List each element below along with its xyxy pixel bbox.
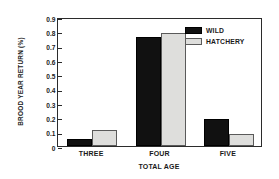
y-axis-tick-label: 0.7 xyxy=(46,44,55,51)
y-axis-tick: 0 xyxy=(58,148,62,149)
y-axis-tick-label: 0.6 xyxy=(46,59,55,66)
bar-four-hatchery xyxy=(161,33,186,146)
bar-five-wild xyxy=(204,119,229,146)
y-axis-tick-label: 0.2 xyxy=(46,116,55,123)
legend-item-hatchery: HATCHERY xyxy=(185,36,259,47)
legend-item-wild: WILD xyxy=(185,25,259,36)
legend-label-wild: WILD xyxy=(206,27,224,34)
bar-three-hatchery xyxy=(92,130,117,146)
y-axis-tick-label: 0.9 xyxy=(46,16,55,23)
legend-label-hatchery: HATCHERY xyxy=(206,38,245,45)
y-axis-tick-label: 0.5 xyxy=(46,73,55,80)
y-axis-tick-label: 0.1 xyxy=(46,130,55,137)
y-axis-title: BROOD YEAR RETURN (%) xyxy=(17,12,24,152)
y-axis-tick: 0.8 xyxy=(58,33,62,34)
x-axis-tick-label-four: FOUR xyxy=(149,150,170,157)
y-axis-tick: 0.1 xyxy=(58,134,62,135)
legend-swatch-wild xyxy=(185,27,202,34)
bar-four-wild xyxy=(136,37,161,146)
y-axis-tick: 0.4 xyxy=(58,91,62,92)
y-axis-tick: 0.6 xyxy=(58,62,62,63)
chart-legend: WILDHATCHERY xyxy=(185,25,259,47)
y-axis-tick: 0.3 xyxy=(58,105,62,106)
bar-three-wild xyxy=(67,139,92,146)
y-axis-tick-label: 0.3 xyxy=(46,102,55,109)
y-axis-tick-label: 0 xyxy=(52,145,56,152)
x-axis-tick-label-three: THREE xyxy=(79,150,104,157)
y-axis-tick-label: 0.8 xyxy=(46,30,55,37)
bar-chart-figure: BROOD YEAR RETURN (%) 0.90.80.70.60.50.4… xyxy=(0,0,279,179)
x-axis-title: TOTAL AGE xyxy=(138,163,179,170)
legend-swatch-hatchery xyxy=(185,38,202,45)
y-axis-tick: 0.2 xyxy=(58,119,62,120)
x-axis-tick-label-five: FIVE xyxy=(220,150,236,157)
y-axis-tick: 0.7 xyxy=(58,48,62,49)
y-axis-tick: 0.5 xyxy=(58,76,62,77)
y-axis-tick-label: 0.4 xyxy=(46,87,55,94)
y-axis-tick: 0.9 xyxy=(58,19,62,20)
bar-five-hatchery xyxy=(229,134,254,146)
